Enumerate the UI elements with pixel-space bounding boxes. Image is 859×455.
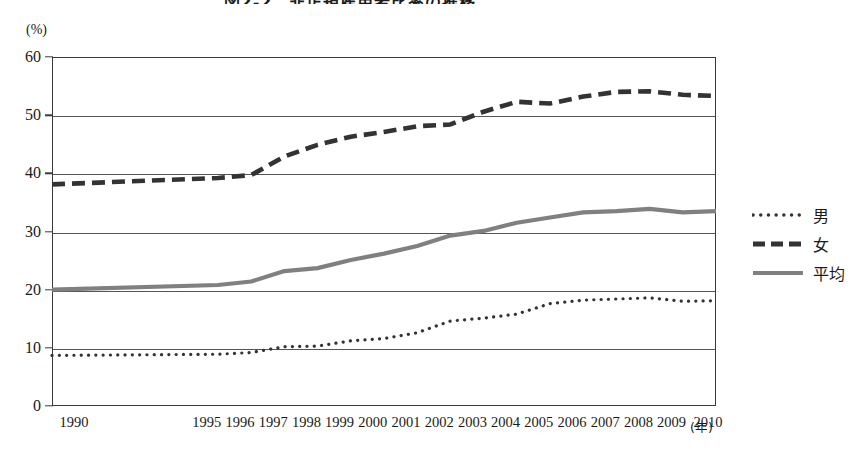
y-tick-label: 50 — [25, 106, 41, 124]
x-tick-label: 1998 — [292, 414, 321, 431]
x-tick-label: 2007 — [591, 414, 620, 431]
y-tick-label: 10 — [25, 339, 41, 357]
figure-title: 図2-2 非正規雇用者比率の推移 — [0, 0, 700, 4]
y-tick-label: 30 — [25, 223, 41, 241]
legend-item-2[interactable]: 平均 — [752, 258, 859, 287]
x-tick-label: 2008 — [624, 414, 653, 431]
y-tick-label: 40 — [25, 164, 41, 182]
x-tick-label: 2003 — [458, 414, 487, 431]
x-tick-label: 1995 — [192, 414, 221, 431]
y-tick-label: 0 — [33, 397, 41, 415]
legend-label: 男 — [813, 203, 829, 227]
x-tick-label: 1996 — [226, 414, 255, 431]
x-tick-label: 1999 — [325, 414, 354, 431]
series-line-average — [52, 209, 716, 290]
legend-item-1[interactable]: 女 — [752, 229, 859, 258]
legend-swatch-dashed — [752, 237, 804, 251]
x-tick-label: 2001 — [392, 414, 421, 431]
y-tick-label: 60 — [25, 48, 41, 66]
x-tick-label: 2002 — [425, 414, 454, 431]
legend-item-0[interactable]: 男 — [752, 200, 859, 229]
x-tick-label: 2005 — [524, 414, 553, 431]
x-axis-unit-label: (年) — [690, 417, 713, 436]
y-tick-label: 20 — [25, 281, 41, 299]
x-tick-label: 1990 — [60, 414, 89, 431]
legend: 男女平均 — [752, 200, 859, 287]
legend-swatch-solid — [752, 266, 804, 280]
x-tick-label: 2006 — [558, 414, 587, 431]
legend-swatch-dotted — [752, 208, 804, 222]
x-tick-label: 2009 — [657, 414, 686, 431]
x-tick-label: 2000 — [358, 414, 387, 431]
x-tick-label: 1997 — [259, 414, 288, 431]
x-tick-label: 2004 — [491, 414, 520, 431]
series-layer — [52, 57, 716, 406]
legend-label: 女 — [813, 232, 829, 256]
figure-root: 図2-2 非正規雇用者比率の推移 (%) 0102030405060 19901… — [0, 0, 859, 455]
series-line-female — [52, 91, 716, 184]
series-line-male — [52, 298, 716, 356]
y-axis: 0102030405060 — [0, 0, 52, 455]
legend-label: 平均 — [813, 261, 845, 285]
